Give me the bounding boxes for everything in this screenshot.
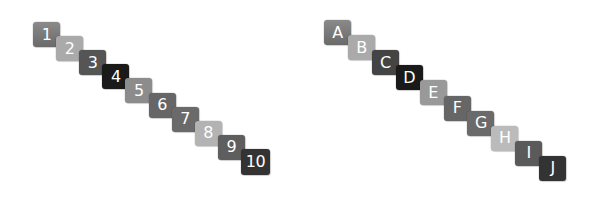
tile-label: A: [332, 25, 342, 41]
tile-c: C: [372, 50, 399, 75]
tile-label: 9: [226, 139, 236, 155]
tile-label: 6: [157, 97, 167, 113]
tile-label: 3: [88, 55, 98, 71]
letter-sequence: A B C D E F G H I J: [0, 0, 595, 204]
tile-label: I: [527, 145, 531, 161]
tile-label: D: [403, 70, 415, 86]
tile-label: J: [550, 160, 554, 176]
tile-d: D: [396, 65, 423, 90]
tile-label: E: [428, 85, 438, 101]
tile-label: F: [453, 100, 462, 116]
tile-label: 10: [246, 154, 265, 170]
tile-a: A: [324, 20, 351, 45]
tile-label: B: [356, 40, 366, 56]
tile-label: C: [380, 55, 391, 71]
tile-label: 2: [65, 41, 75, 57]
tile-e: E: [420, 80, 447, 105]
tile-label: H: [499, 130, 511, 146]
tile-label: 4: [111, 69, 121, 85]
tile-label: 1: [42, 27, 52, 43]
tile-10: 10: [241, 149, 270, 175]
tile-label: 7: [180, 111, 190, 127]
tile-b: B: [348, 35, 375, 60]
tile-j: J: [539, 156, 566, 181]
tile-label: 8: [203, 125, 213, 141]
tile-label: 5: [134, 83, 144, 99]
tile-label: G: [475, 115, 487, 131]
